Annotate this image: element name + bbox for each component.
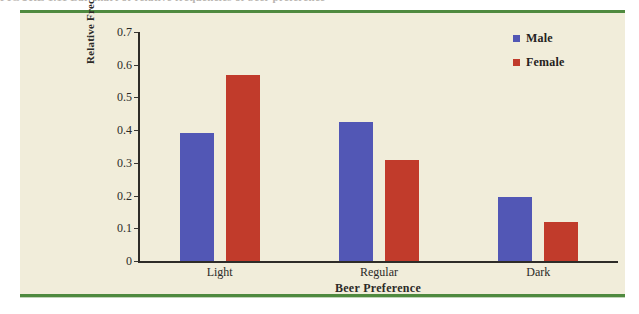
y-tick-label: 0.7 bbox=[98, 25, 132, 40]
y-axis-title: Relative Frequencies bbox=[84, 0, 96, 83]
x-tick-label-regular: Regular bbox=[360, 265, 398, 280]
y-tick-label: 0.1 bbox=[98, 221, 132, 236]
x-axis-line bbox=[138, 261, 618, 263]
y-tick-mark bbox=[134, 261, 138, 262]
figure-panel: Relative Frequencies 0.70.60.50.40.30.20… bbox=[0, 7, 639, 302]
legend-label-female: Female bbox=[526, 55, 565, 70]
y-tick-mark bbox=[134, 130, 138, 131]
y-tick-label: 0.5 bbox=[98, 90, 132, 105]
x-axis-title: Beer Preference bbox=[138, 281, 618, 296]
legend-label-male: Male bbox=[526, 31, 553, 46]
y-tick-mark bbox=[134, 163, 138, 164]
y-tick-mark bbox=[134, 97, 138, 98]
y-tick-mark bbox=[134, 65, 138, 66]
legend-swatch-female-icon bbox=[513, 59, 520, 66]
x-tick-label-light: Light bbox=[207, 265, 233, 280]
bar-light-female bbox=[226, 75, 260, 261]
bar-light-male bbox=[180, 133, 214, 261]
y-tick-label: 0.4 bbox=[98, 123, 132, 138]
y-tick-label: 0.6 bbox=[98, 57, 132, 72]
legend-item-male[interactable]: Male bbox=[513, 31, 613, 46]
chart-legend: Male Female bbox=[513, 31, 613, 79]
x-tick-label-dark: Dark bbox=[526, 265, 550, 280]
y-tick-mark bbox=[134, 32, 138, 33]
bar-dark-male bbox=[498, 197, 532, 261]
y-tick-label: 0 bbox=[98, 254, 132, 269]
legend-swatch-male-icon bbox=[513, 35, 520, 42]
bar-regular-female bbox=[385, 160, 419, 261]
y-tick-label: 0.2 bbox=[98, 188, 132, 203]
legend-item-female[interactable]: Female bbox=[513, 55, 613, 70]
y-tick-mark bbox=[134, 228, 138, 229]
y-tick-label: 0.3 bbox=[98, 155, 132, 170]
chart-plate: Relative Frequencies 0.70.60.50.40.30.20… bbox=[20, 13, 625, 294]
bar-chart: Relative Frequencies 0.70.60.50.40.30.20… bbox=[20, 13, 625, 294]
bar-dark-female bbox=[544, 222, 578, 261]
bar-regular-male bbox=[339, 122, 373, 261]
y-tick-mark bbox=[134, 196, 138, 197]
